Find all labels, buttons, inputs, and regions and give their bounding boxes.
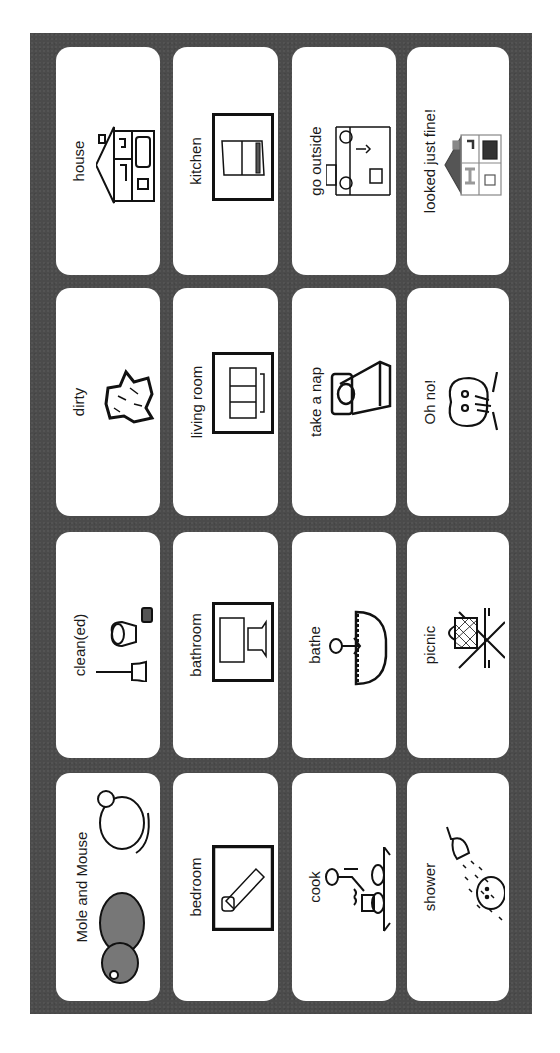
card-mole-and-mouse[interactable]: Mole and Mouse bbox=[56, 773, 160, 1001]
card-bathroom[interactable]: bathroom bbox=[173, 532, 278, 758]
card-house[interactable]: house bbox=[56, 47, 160, 275]
card-cleaned[interactable]: clean(ed) bbox=[56, 532, 160, 758]
card-label: bathroom bbox=[187, 605, 204, 685]
card-label: take a nap bbox=[307, 361, 324, 443]
bed-pillow-icon bbox=[330, 356, 394, 418]
card-label: living room bbox=[188, 357, 205, 447]
card-label: looked just fine! bbox=[421, 91, 438, 231]
card-picnic[interactable]: picnic bbox=[407, 532, 509, 758]
card-bedroom[interactable]: bedroom bbox=[173, 773, 278, 1001]
card-shower[interactable]: shower bbox=[407, 773, 509, 1001]
card-dirty[interactable]: dirty bbox=[56, 288, 160, 516]
picnic-basket-table-icon bbox=[441, 608, 505, 672]
card-label: go outside bbox=[307, 118, 324, 204]
dirt-stain-icon bbox=[100, 368, 158, 426]
card-go-outside[interactable]: go outside bbox=[292, 47, 396, 275]
card-label: shower bbox=[421, 849, 438, 925]
card-oh-no[interactable]: Oh no! bbox=[407, 288, 509, 516]
bathtub-toilet-icon bbox=[212, 602, 274, 682]
shower-head-icon bbox=[441, 825, 505, 935]
mole-and-mouse-icon bbox=[92, 783, 154, 993]
card-label: kitchen bbox=[187, 129, 204, 193]
clean-house-icon bbox=[443, 127, 505, 203]
house-icon bbox=[96, 125, 158, 205]
card-kitchen[interactable]: kitchen bbox=[173, 47, 278, 275]
refrigerator-icon bbox=[212, 113, 274, 201]
bed-icon bbox=[212, 845, 274, 931]
card-label: house bbox=[70, 131, 87, 191]
card-label: clean(ed) bbox=[71, 610, 88, 680]
exit-door-outside-icon bbox=[326, 119, 392, 199]
person-in-bathtub-icon bbox=[328, 608, 390, 688]
card-label: cook bbox=[306, 859, 323, 915]
broom-bucket-sponge-icon bbox=[96, 602, 156, 682]
card-label: Oh no! bbox=[421, 374, 438, 430]
person-cooking-stove-icon bbox=[324, 847, 392, 937]
card-label: picnic bbox=[421, 615, 438, 675]
communication-board: house dirty clean(ed) bbox=[30, 33, 532, 1014]
card-living-room[interactable]: living room bbox=[173, 288, 278, 516]
card-take-a-nap[interactable]: take a nap bbox=[292, 288, 396, 516]
surprised-face-icon bbox=[441, 372, 503, 432]
card-bathe[interactable]: bathe bbox=[292, 532, 396, 758]
card-label: Mole and Mouse bbox=[73, 822, 90, 952]
card-cook[interactable]: cook bbox=[292, 773, 396, 1001]
sofa-icon bbox=[212, 352, 274, 434]
card-label: dirty bbox=[70, 372, 87, 432]
card-label: bedroom bbox=[187, 849, 204, 925]
card-label: bathe bbox=[306, 617, 323, 673]
card-looked-just-fine[interactable]: looked just fine! bbox=[407, 47, 509, 275]
